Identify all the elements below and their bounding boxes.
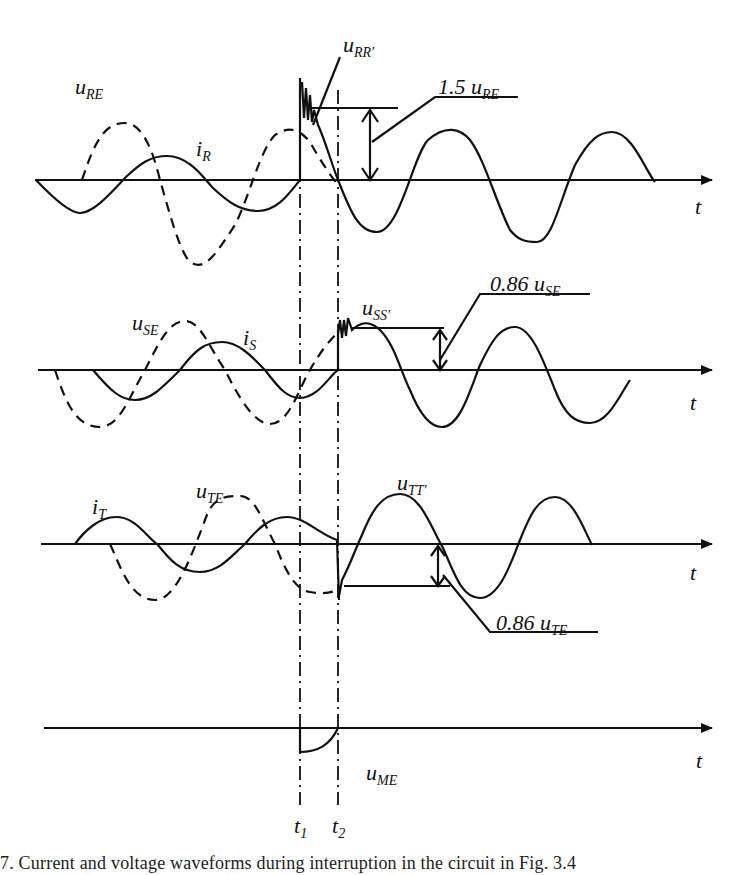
recovery-wave-uss [338, 318, 630, 427]
label-recovery-urr: uRR' [343, 34, 374, 60]
recovery-wave-utt [337, 494, 592, 600]
label-t2: t2 [332, 815, 345, 841]
label-voltage-ure: uRE [75, 76, 103, 102]
axis-label-t-t: t [690, 562, 696, 584]
label-t1: t1 [294, 815, 307, 841]
label-current-ir: iR [196, 138, 211, 164]
voltage-wave-ume [300, 728, 338, 752]
figure-caption: 7. Current and voltage waveforms during … [0, 853, 750, 874]
label-annotation-s: 0.86 uSE [490, 273, 561, 299]
label-annotation-r: 1.5 uRE [438, 76, 505, 102]
label-recovery-uss: uSS' [362, 297, 390, 323]
label-recovery-utt: uTT' [397, 472, 427, 498]
axis-label-t-m: t [696, 750, 702, 772]
label-current-it: iT [92, 496, 106, 522]
axis-label-t-s: t [690, 392, 696, 414]
waveform-diagram [0, 0, 750, 875]
panel-t [41, 494, 712, 632]
label-voltage-use: uSE [132, 312, 159, 338]
voltage-wave-ute [110, 496, 340, 600]
annotation-leader-r [372, 97, 518, 142]
label-annotation-t: 0.86 uTE [496, 612, 567, 638]
axis-label-t-r: t [695, 196, 701, 218]
label-voltage-ute: uTE [196, 480, 223, 506]
recovery-leader-r [313, 57, 340, 125]
label-voltage-ume: uME [366, 762, 397, 788]
panel-r [35, 57, 712, 265]
recovery-wave-urr [300, 78, 655, 242]
label-current-is: iS [243, 327, 256, 353]
panel-m [44, 728, 712, 752]
